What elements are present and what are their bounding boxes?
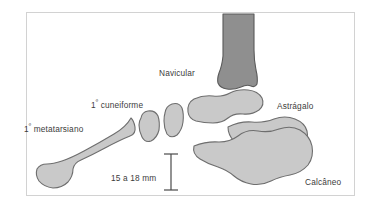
foot-anatomy-figure: 1º metatarsiano 1º cuneiforme Navicular … (0, 0, 368, 206)
bone-navicular (188, 90, 263, 123)
bone-first-cuneiform (164, 104, 183, 137)
bone-tibia (218, 14, 258, 89)
label-first-cuneiform: 1º cuneiforme (91, 101, 143, 109)
measurement-dimension-line (164, 154, 178, 190)
label-calcaneus: Calcâneo (305, 178, 341, 186)
bone-calcaneus (194, 127, 313, 184)
label-text: cuneiforme (98, 100, 143, 110)
label-navicular: Navicular (159, 69, 195, 77)
bone-intermediate (139, 111, 159, 142)
label-measurement-value: 15 a 18 mm (111, 174, 156, 182)
label-text: metatarsiano (31, 124, 83, 134)
label-talus: Astrágalo (277, 102, 313, 110)
label-first-metatarsal: 1º metatarsiano (24, 125, 83, 133)
